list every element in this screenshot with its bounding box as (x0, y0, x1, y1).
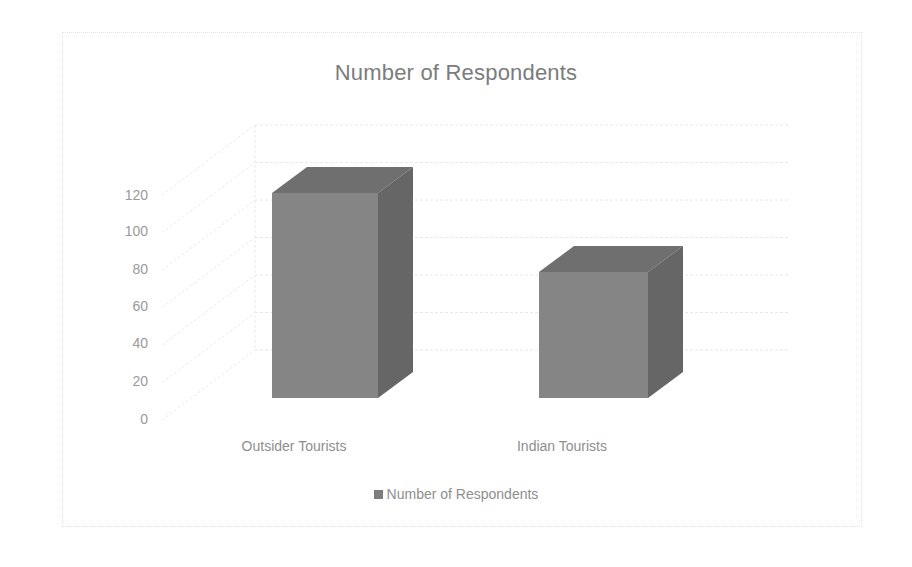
bar-side-face (648, 246, 683, 398)
plot-area (0, 0, 912, 567)
x-category-label: Indian Tourists (462, 438, 662, 454)
legend-swatch-icon (374, 490, 383, 499)
x-category-label: Outsider Tourists (194, 438, 394, 454)
y-tick-label: 80 (108, 261, 148, 277)
legend: Number of Respondents (0, 486, 912, 502)
y-tick-label: 120 (108, 187, 148, 203)
y-tick-label: 100 (108, 223, 148, 239)
bar-front-face (272, 193, 378, 398)
bar-side-face (378, 167, 413, 398)
y-tick-label: 40 (108, 335, 148, 351)
y-tick-label: 60 (108, 298, 148, 314)
y-tick-label: 0 (108, 411, 148, 427)
bar-outsider-tourists[interactable] (272, 167, 413, 398)
legend-label: Number of Respondents (387, 486, 539, 502)
bar-front-face (539, 272, 648, 398)
side-wall-gridlines (162, 125, 255, 420)
y-tick-label: 20 (108, 373, 148, 389)
bar-indian-tourists[interactable] (539, 246, 683, 398)
